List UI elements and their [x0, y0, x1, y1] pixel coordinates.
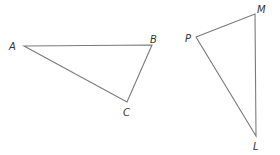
vertex-label-b: B: [150, 34, 157, 45]
vertex-label-p: P: [185, 33, 192, 44]
triangle-abc: A B C: [8, 34, 157, 118]
triangle-abc-outline: [24, 45, 152, 102]
vertex-label-a: A: [8, 41, 16, 52]
triangles-diagram: A B C P M L: [0, 0, 280, 155]
vertex-label-l: L: [253, 141, 259, 152]
triangle-pml-outline: [196, 14, 256, 136]
vertex-label-m: M: [257, 4, 266, 15]
vertex-label-c: C: [123, 107, 130, 118]
triangle-pml: P M L: [185, 4, 266, 152]
